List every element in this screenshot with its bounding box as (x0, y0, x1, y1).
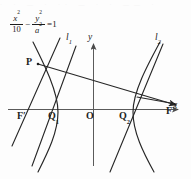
geometry-figure: · · — · ·· — · · —— · (0, 0, 191, 179)
label-point-F-prime-mark: ′ (23, 110, 26, 121)
equation-term2-exponent: 2 (39, 9, 42, 15)
label-y-axis: y (88, 33, 92, 43)
equation-first-fraction: x2 10 (10, 13, 23, 34)
label-origin-O: O (86, 111, 94, 121)
label-point-Q2-subscript: 2 (127, 118, 130, 125)
label-point-Q1: Q1 (48, 111, 59, 124)
point-markers (37, 63, 40, 66)
line-l2 (110, 44, 163, 172)
chord-P-to-F (38, 64, 176, 105)
axis-group (8, 44, 178, 166)
label-point-Q1-subscript: 1 (56, 118, 59, 125)
equation-operator: − (24, 19, 31, 29)
label-line-l1-subscript: 1 (69, 38, 72, 45)
label-line-l1: l1 (66, 33, 72, 44)
label-line-l2-subscript: 2 (158, 38, 161, 45)
ray-F-to-Q2-region (137, 97, 176, 104)
equation-term1-exponent: 2 (17, 9, 20, 15)
line-focal-left (12, 38, 60, 146)
hyperbola-equation: x2 10 − y2 a2 =1 (9, 13, 57, 34)
label-point-P: P (26, 57, 32, 67)
equation-equals-one: =1 (46, 19, 57, 29)
equation-term1-denominator: 10 (11, 25, 22, 34)
equation-term2-denominator: a2 (34, 25, 43, 34)
label-point-F-prime: F′ (17, 111, 26, 121)
label-point-Q2: Q2 (119, 111, 130, 124)
label-line-l2: l2 (155, 33, 161, 44)
label-point-F: F (166, 106, 172, 116)
equation-term1-numerator: x2 (12, 13, 21, 23)
label-x-axis: x (173, 101, 177, 111)
equation-second-fraction: y2 a2 (32, 13, 45, 34)
point-P-marker (37, 63, 40, 66)
equation-term2-den-exponent: 2 (39, 21, 42, 27)
hyperbola-curves (33, 42, 160, 172)
